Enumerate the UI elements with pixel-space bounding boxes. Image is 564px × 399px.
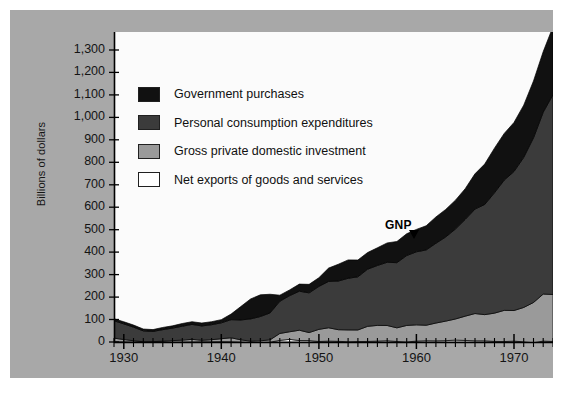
y-tick-label: 1,000: [74, 109, 105, 123]
legend-swatch-personal-consumption: [138, 115, 160, 130]
y-tick-label: 900: [84, 132, 105, 146]
y-tick-label: 600: [84, 199, 105, 213]
legend-label-net-exports: Net exports of goods and services: [174, 173, 363, 187]
legend-label-gross-private-investment: Gross private domestic investment: [174, 144, 366, 158]
legend-label-personal-consumption: Personal consumption expenditures: [174, 116, 373, 130]
y-tick-label: 1,300: [74, 42, 105, 56]
x-tick-label: 1940: [207, 350, 236, 365]
y-tick-label: 400: [84, 244, 105, 258]
legend-item-net-exports: Net exports of goods and services: [138, 169, 373, 191]
x-tick-label: 1950: [304, 350, 333, 365]
y-tick-label: 1,200: [74, 64, 105, 78]
y-tick-label: 700: [84, 177, 105, 191]
y-tick-label: 1,100: [74, 87, 105, 101]
y-axis-title: Billions of dollars: [35, 94, 47, 234]
legend-swatch-gross-private-investment: [138, 144, 160, 159]
legend-swatch-net-exports: [138, 172, 160, 187]
y-tick-label: 100: [84, 312, 105, 326]
y-tick-label: 0: [98, 334, 105, 348]
figure-canvas: Billions of dollars 01002003004005006007…: [0, 0, 564, 399]
y-tick-label: 200: [84, 289, 105, 303]
legend-item-government-purchases: Government purchases: [138, 83, 373, 105]
x-tick-label: 1970: [500, 350, 529, 365]
y-tick-label: 800: [84, 154, 105, 168]
y-tick-label: 500: [84, 222, 105, 236]
legend-label-government-purchases: Government purchases: [174, 87, 304, 101]
legend: Government purchases Personal consumptio…: [138, 83, 373, 197]
x-tick-label: 1930: [109, 350, 138, 365]
legend-swatch-government-purchases: [138, 87, 160, 102]
x-tick-label: 1960: [402, 350, 431, 365]
chart-plate: Billions of dollars 01002003004005006007…: [10, 10, 553, 378]
y-tick-label: 300: [84, 267, 105, 281]
legend-item-personal-consumption: Personal consumption expenditures: [138, 112, 373, 134]
legend-item-gross-private-investment: Gross private domestic investment: [138, 140, 373, 162]
gnp-annotation-label: GNP: [385, 218, 412, 232]
